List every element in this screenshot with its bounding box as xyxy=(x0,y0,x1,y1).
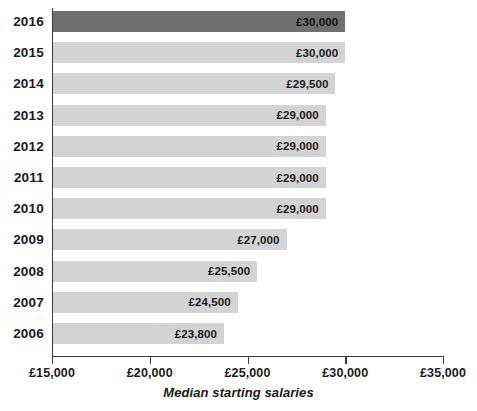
year-axis-label: 2007 xyxy=(0,292,44,313)
bar[interactable]: £29,000 xyxy=(53,136,326,157)
x-axis-tick-label: £30,000 xyxy=(322,366,368,380)
bar[interactable]: £29,500 xyxy=(53,73,335,94)
bar[interactable]: £27,000 xyxy=(53,229,287,250)
bar-row[interactable]: 2009£27,000 xyxy=(0,229,477,250)
bar-row[interactable]: 2012£29,000 xyxy=(0,136,477,157)
bar[interactable]: £29,000 xyxy=(53,167,326,188)
x-axis-tick xyxy=(443,356,444,364)
x-axis-tick xyxy=(345,356,346,364)
x-axis-title: Median starting salaries xyxy=(0,385,477,400)
bar-chart: 2016£30,0002015£30,0002014£29,5002013£29… xyxy=(0,0,477,411)
bar-row[interactable]: 2006£23,800 xyxy=(0,323,477,344)
bar-value-label: £25,500 xyxy=(208,265,250,277)
bar[interactable]: £29,000 xyxy=(53,198,326,219)
bar-value-label: £29,000 xyxy=(276,172,318,184)
x-axis-tick-label: £20,000 xyxy=(127,366,173,380)
bar-row[interactable]: 2014£29,500 xyxy=(0,73,477,94)
x-axis-tick-label: £25,000 xyxy=(225,366,271,380)
x-axis-tick-label: £35,000 xyxy=(420,366,466,380)
bar[interactable]: £23,800 xyxy=(53,323,224,344)
bar-row[interactable]: 2013£29,000 xyxy=(0,105,477,126)
year-axis-label: 2012 xyxy=(0,136,44,157)
bar-value-label: £23,800 xyxy=(175,328,217,340)
x-axis-tick xyxy=(150,356,151,364)
year-axis-label: 2014 xyxy=(0,73,44,94)
bar-value-label: £24,500 xyxy=(188,296,230,308)
bar[interactable]: £30,000 xyxy=(53,11,345,32)
year-axis-label: 2013 xyxy=(0,105,44,126)
year-axis-label: 2016 xyxy=(0,11,44,32)
bar[interactable]: £30,000 xyxy=(53,42,345,63)
x-axis-tick-label: £15,000 xyxy=(29,366,75,380)
bar-row[interactable]: 2011£29,000 xyxy=(0,167,477,188)
year-axis-label: 2011 xyxy=(0,167,44,188)
bar-value-label: £29,000 xyxy=(276,203,318,215)
bar[interactable]: £29,000 xyxy=(53,105,326,126)
x-axis-tick xyxy=(248,356,249,364)
x-axis-tick xyxy=(52,356,53,364)
y-axis-spine xyxy=(52,8,53,357)
bar[interactable]: £24,500 xyxy=(53,292,238,313)
bar-row[interactable]: 2016£30,000 xyxy=(0,11,477,32)
year-axis-label: 2010 xyxy=(0,198,44,219)
bar-row[interactable]: 2008£25,500 xyxy=(0,261,477,282)
bar-value-label: £27,000 xyxy=(237,234,279,246)
bar-row[interactable]: 2010£29,000 xyxy=(0,198,477,219)
bar-value-label: £30,000 xyxy=(296,47,338,59)
year-axis-label: 2006 xyxy=(0,323,44,344)
year-axis-label: 2015 xyxy=(0,42,44,63)
bar-row[interactable]: 2015£30,000 xyxy=(0,42,477,63)
bar[interactable]: £25,500 xyxy=(53,261,257,282)
year-axis-label: 2009 xyxy=(0,229,44,250)
bar-value-label: £29,000 xyxy=(276,140,318,152)
plot-area: 2016£30,0002015£30,0002014£29,5002013£29… xyxy=(0,0,477,356)
year-axis-label: 2008 xyxy=(0,261,44,282)
bar-value-label: £30,000 xyxy=(296,16,338,28)
bar-row[interactable]: 2007£24,500 xyxy=(0,292,477,313)
bar-value-label: £29,000 xyxy=(276,109,318,121)
bar-value-label: £29,500 xyxy=(286,78,328,90)
